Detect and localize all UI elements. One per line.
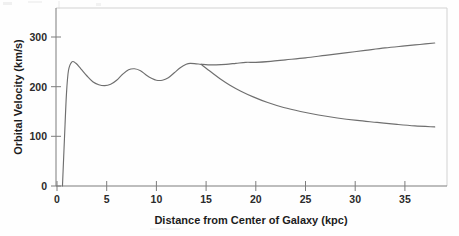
galaxy-rotation-curve-figure: 0 100 200 300 0 5 10 15 20 25 30 35: [0, 0, 459, 236]
plot-frame: [56, 8, 447, 186]
observed-rotation-curve-line: [62, 43, 434, 186]
y-axis-title: Orbital Velocity (km/s): [12, 39, 24, 155]
x-tick-label-25: 25: [300, 193, 312, 205]
y-tick-label-200: 200: [29, 81, 47, 93]
x-axis-tick-labels: 0 5 10 15 20 25 30 35: [54, 193, 411, 205]
x-tick-label-15: 15: [200, 193, 212, 205]
chart-plot-area: 0 100 200 300 0 5 10 15 20 25 30 35: [0, 0, 459, 236]
y-axis-tick-labels: 0 100 200 300: [29, 31, 47, 192]
x-tick-label-5: 5: [104, 193, 110, 205]
y-tick-label-300: 300: [29, 31, 47, 43]
y-tick-label-100: 100: [29, 130, 47, 142]
axes: [56, 8, 447, 186]
y-tick-label-0: 0: [41, 180, 47, 192]
data-curves: [62, 43, 434, 186]
x-tick-label-20: 20: [250, 193, 262, 205]
x-axis-title: Distance from Center of Galaxy (kpc): [154, 214, 348, 226]
x-tick-label-35: 35: [399, 193, 411, 205]
x-tick-label-0: 0: [54, 193, 60, 205]
keplerian-decline-line: [201, 64, 435, 127]
x-tick-label-30: 30: [349, 193, 361, 205]
x-tick-label-10: 10: [151, 193, 163, 205]
